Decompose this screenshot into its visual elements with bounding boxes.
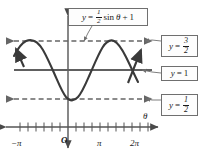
equation-plus: + [122, 13, 127, 22]
equation-equals: = [88, 13, 93, 22]
callout-equals: = [177, 69, 182, 78]
x-axis [6, 123, 158, 132]
leader-y-three-halves [145, 40, 161, 41]
equation-constant: 1 [130, 13, 135, 22]
callout-equals: = [175, 42, 180, 51]
theta-axis-label: θ [143, 111, 148, 121]
x-tick-label-pi: π [97, 138, 102, 148]
equation-variable: θ [116, 13, 120, 22]
callout-denominator: 2 [183, 47, 189, 55]
equation-lhs: y [82, 13, 86, 22]
callout-lhs: y [169, 101, 173, 110]
callout-value: 1 [184, 69, 189, 78]
equation-coefficient-fraction: 1 2 [96, 9, 102, 25]
callout-y-one: y = 1 [161, 66, 198, 81]
callout-lhs: y [169, 42, 173, 51]
callout-fraction: 3 2 [183, 37, 189, 55]
leader-equation [84, 26, 92, 41]
equation-coefficient-denominator: 2 [96, 18, 102, 25]
callout-denominator: 2 [183, 106, 189, 114]
equation-function: sin [104, 13, 115, 22]
leader-y-one-half [146, 99, 161, 100]
equation-callout: y = 1 2 sin θ + 1 [68, 8, 148, 26]
callout-fraction: 1 2 [183, 96, 189, 114]
x-tick-label-neg-pi: −π [11, 138, 22, 148]
callout-equals: = [175, 101, 180, 110]
callout-y-three-halves: y = 3 2 [161, 35, 198, 57]
x-tick-label-2pi: 2π [130, 138, 140, 148]
callout-y-one-half: y = 1 2 [161, 94, 198, 116]
origin-label: O [61, 135, 68, 145]
callout-lhs: y [171, 69, 175, 78]
